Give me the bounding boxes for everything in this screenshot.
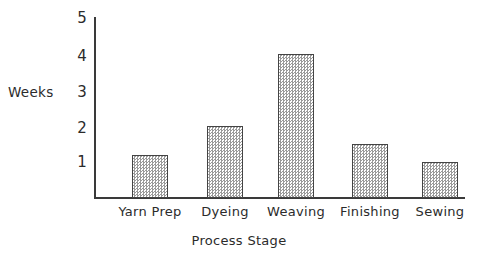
bar-finishing <box>352 144 388 198</box>
bar-sewing <box>422 162 458 198</box>
x-tick-label-sewing: Sewing <box>400 204 478 219</box>
bar-dyeing <box>207 126 243 198</box>
x-tick-label-weaving: Weaving <box>256 204 336 219</box>
bars-layer <box>0 0 478 266</box>
bar-weaving <box>278 54 314 198</box>
bar-chart: 1 2 3 4 5 Weeks Process Stage Yarn Prep … <box>0 0 478 266</box>
x-tick-label-yarn-prep: Yarn Prep <box>110 204 190 219</box>
x-tick-label-dyeing: Dyeing <box>185 204 265 219</box>
bar-yarn-prep <box>132 155 168 198</box>
x-tick-label-finishing: Finishing <box>330 204 410 219</box>
